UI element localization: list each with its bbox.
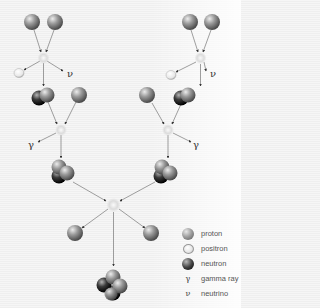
deuterium-nucleus [174,88,196,106]
legend-label: gamma ray [201,274,239,283]
legend-label: proton [201,229,222,238]
legend-label: positron [201,244,228,253]
proton-particle [24,14,40,30]
reaction-burst-icon [195,52,207,64]
legend-label: neutron [201,259,226,268]
left-branch: ν γ [14,14,106,201]
helium-4-nucleus [97,270,128,301]
right-branch: ν γ [120,14,220,201]
legend-item-gamma-ray: γ gamma ray [181,271,241,286]
gamma-icon: γ [186,274,191,283]
helium-3-nucleus [154,160,178,184]
proton-particle [139,87,155,103]
gamma-symbol: γ [193,139,199,150]
legend-item-neutrino: ν neutrino [181,286,241,301]
proton-particle [47,14,63,30]
neutrino-symbol: ν [210,68,216,79]
positron-particle [14,69,24,78]
neutrino-symbol: ν [67,68,73,79]
reaction-burst-icon [107,198,121,212]
deuterium-nucleus [32,88,55,106]
proton-particle [182,14,198,30]
legend: proton positron neutron γ gamma ray ν ne… [181,226,241,301]
positron-icon [183,244,194,254]
legend-item-proton: proton [181,226,241,241]
helium-3-nucleus [52,160,75,184]
positron-particle [166,71,176,80]
proton-particle [71,87,87,103]
reaction-burst-icon [162,124,174,136]
proton-particle [204,14,220,30]
reaction-burst-icon [55,124,67,136]
gamma-symbol: γ [28,139,34,150]
proton-particle [143,225,159,241]
proton-icon [182,228,194,240]
legend-label: neutrino [201,289,228,298]
reaction-burst-icon [38,52,50,64]
neutron-icon [182,258,194,270]
neutrino-icon: ν [186,289,191,298]
proton-particle [67,225,83,241]
legend-item-positron: positron [181,241,241,256]
legend-item-neutron: neutron [181,256,241,271]
central-fusion [67,198,159,301]
